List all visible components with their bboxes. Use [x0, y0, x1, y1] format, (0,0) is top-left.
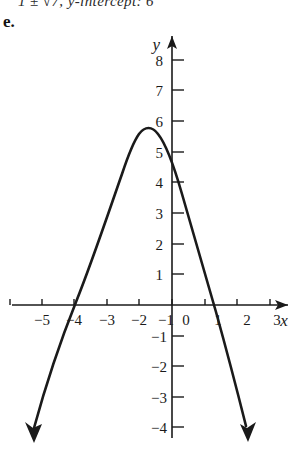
y-tick-label: 2: [156, 237, 164, 253]
y-tick-label: 3: [156, 206, 164, 222]
figure-root: 1 ± √7, y-intercept: 6 e.: [0, 0, 308, 457]
y-tick-label: 8: [156, 53, 164, 69]
x-tick-label: 2: [243, 312, 251, 328]
x-tick-label: 0: [182, 312, 190, 328]
y-tick-label: 4: [156, 175, 164, 191]
y-axis-label: y: [150, 35, 160, 54]
x-axis-label: x: [279, 311, 288, 330]
x-tick-label: −5: [34, 312, 50, 328]
x-ticks-group: [10, 299, 270, 305]
cropped-answer-text: 1 ± √7, y-intercept: 6: [18, 0, 298, 11]
y-tick-label: 1: [156, 267, 164, 283]
graph-canvas: −5 −4 −3 −2 −1 0 1 2 3 8 7 6 5 4 3 2 1 −…: [0, 14, 308, 457]
x-tick-label: −2: [131, 312, 147, 328]
y-tick-label: 6: [156, 114, 164, 130]
axes-group: [12, 36, 288, 438]
y-tick-label: −3: [151, 390, 167, 406]
parabola-curve-group: [25, 128, 256, 443]
parabola-right-arrowhead: [240, 422, 256, 442]
y-tick-label: 7: [156, 83, 164, 99]
y-tick-labels-group: 8 7 6 5 4 3 2 1 −1 −2 −3 −4: [151, 53, 167, 436]
y-tick-label: −1: [151, 329, 167, 345]
parabola-curve: [34, 128, 246, 428]
cropped-answer-label: 1 ± √7, y-intercept: 6: [18, 0, 154, 9]
y-tick-label: −4: [151, 420, 167, 436]
y-ticks-group: [172, 60, 184, 427]
x-tick-label: −3: [99, 312, 115, 328]
y-tick-label: −2: [151, 359, 167, 375]
y-tick-label: 5: [156, 145, 164, 161]
x-tick-label: −1: [158, 312, 174, 328]
